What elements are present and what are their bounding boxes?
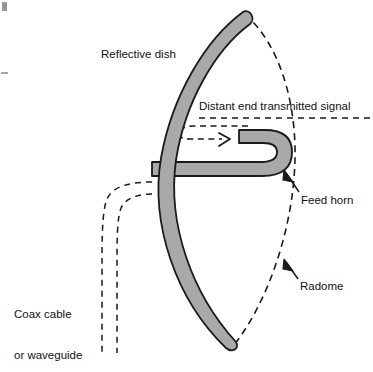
label-coax-cable-or-waveguide: Coax cable or waveguide — [14, 281, 82, 372]
label-reflective-dish: Reflective dish — [101, 48, 176, 62]
signal-path-line — [178, 126, 248, 139]
radome-arc — [229, 14, 295, 351]
reflective-dish-shape — [159, 11, 253, 350]
scan-artifact-middle — [1, 72, 8, 74]
coax-cable-inner-line — [117, 194, 152, 353]
scan-artifact-top — [2, 2, 7, 11]
label-coax-line-1: Coax cable — [14, 308, 82, 322]
label-radome: Radome — [300, 280, 343, 294]
label-feed-horn: Feed horn — [301, 194, 353, 208]
label-distant-end-transmitted-signal: Distant end transmitted signal — [199, 100, 351, 114]
label-coax-line-2: or waveguide — [14, 349, 82, 363]
radome-leader-arrowhead-icon — [283, 259, 293, 271]
coax-cable-outer-line — [102, 182, 152, 355]
feed-horn-leader-arrowhead-icon — [283, 170, 293, 182]
